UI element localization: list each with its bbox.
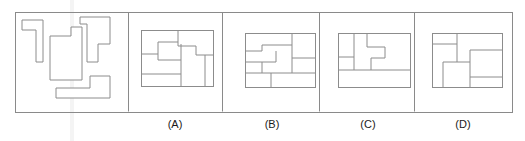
internal-edge <box>292 45 315 73</box>
option-label: (A) <box>168 118 183 130</box>
option-internal-lines <box>141 30 213 86</box>
option-label: (D) <box>455 118 470 130</box>
option-b[interactable]: (B) <box>245 33 316 130</box>
option-d[interactable]: (D) <box>432 33 503 130</box>
internal-edge <box>245 51 276 62</box>
option-label: (C) <box>360 118 375 130</box>
internal-edge <box>178 30 213 55</box>
pieces-panel <box>22 17 110 98</box>
puzzle-piece <box>80 17 110 62</box>
option-label: (B) <box>265 118 280 130</box>
internal-edge <box>262 62 292 73</box>
internal-edge <box>141 42 178 54</box>
option-internal-lines <box>245 33 315 87</box>
internal-edge <box>158 54 181 60</box>
internal-edge <box>432 44 457 87</box>
option-outer-box <box>339 34 411 88</box>
figure-canvas: (A) (B) (C) (D) <box>0 0 525 141</box>
internal-edge <box>367 33 385 58</box>
puzzle-piece <box>50 27 82 80</box>
option-c[interactable]: (C) <box>338 33 411 130</box>
internal-edge <box>371 58 410 70</box>
internal-edge <box>338 33 354 57</box>
internal-edge <box>245 45 292 51</box>
option-a[interactable]: (A) <box>141 30 214 130</box>
option-internal-lines <box>338 33 410 70</box>
puzzle-piece <box>22 20 43 62</box>
option-outer-box <box>246 34 316 88</box>
puzzle-figure: (A) (B) (C) (D) <box>0 0 525 141</box>
option-internal-lines <box>432 33 502 87</box>
